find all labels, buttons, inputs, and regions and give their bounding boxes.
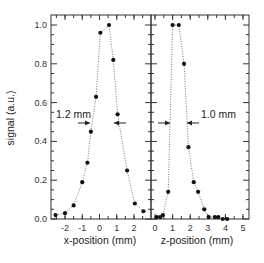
data-point bbox=[98, 31, 102, 35]
data-point bbox=[171, 23, 175, 27]
right-panel-z-profile: 012345 bbox=[151, 15, 249, 233]
data-point bbox=[85, 161, 89, 165]
data-point bbox=[161, 213, 165, 217]
left-fwhm-annotation: 1.2 mm bbox=[56, 108, 91, 120]
data-point bbox=[116, 112, 120, 116]
data-point bbox=[107, 23, 111, 27]
data-point bbox=[216, 215, 220, 219]
data-point bbox=[221, 217, 225, 221]
x-tick-label: 0 bbox=[152, 223, 157, 233]
x-tick-label: 2 bbox=[131, 223, 136, 233]
right-fwhm-annotation: 1.0 mm bbox=[201, 108, 236, 120]
data-point bbox=[80, 180, 84, 184]
data-point bbox=[89, 130, 93, 134]
x-tick-label: 4 bbox=[223, 223, 228, 233]
data-point bbox=[186, 145, 190, 149]
fwhm-arrow-right-in-head bbox=[165, 121, 170, 126]
y-tick-label: 0.8 bbox=[34, 59, 47, 69]
x-tick-label: 5 bbox=[240, 223, 245, 233]
data-point bbox=[192, 180, 196, 184]
y-tick-label: 0.0 bbox=[34, 214, 47, 224]
data-point bbox=[111, 58, 115, 62]
y-tick-label: 1.0 bbox=[34, 20, 47, 30]
data-point bbox=[225, 217, 229, 221]
y-tick-label: 0.4 bbox=[34, 136, 47, 146]
fwhm-profile-chart: -2-10120.00.20.40.60.81.0 012345 signal … bbox=[0, 0, 264, 263]
data-point bbox=[63, 211, 67, 215]
x-tick-label: 3 bbox=[205, 223, 210, 233]
x-tick-label: 0 bbox=[97, 223, 102, 233]
fwhm-arrow-left-out-head bbox=[114, 121, 119, 126]
left-x-axis-label: x-position (mm) bbox=[64, 234, 136, 246]
data-point bbox=[207, 215, 211, 219]
data-point bbox=[166, 190, 170, 194]
x-tick-label: -2 bbox=[61, 223, 69, 233]
data-point bbox=[177, 23, 181, 27]
x-tick-label: 2 bbox=[188, 223, 193, 233]
fwhm-arrow-right-out-head bbox=[187, 121, 192, 126]
data-point bbox=[53, 213, 57, 217]
data-point bbox=[141, 209, 145, 213]
y-axis-label: signal (a.u.) bbox=[4, 91, 16, 146]
data-line bbox=[56, 25, 144, 215]
data-point bbox=[202, 207, 206, 211]
x-tick-label: 1 bbox=[114, 223, 119, 233]
data-point bbox=[196, 190, 200, 194]
data-point bbox=[133, 201, 137, 205]
data-point bbox=[182, 62, 186, 66]
right-x-axis-label: z-position (mm) bbox=[161, 234, 233, 246]
data-point bbox=[72, 203, 76, 207]
data-point bbox=[125, 168, 129, 172]
y-tick-label: 0.2 bbox=[34, 175, 47, 185]
y-tick-label: 0.6 bbox=[34, 98, 47, 108]
data-point bbox=[94, 95, 98, 99]
fwhm-arrow-left-in-head bbox=[85, 121, 90, 126]
x-tick-label: -1 bbox=[78, 223, 86, 233]
left-panel-x-profile: -2-10120.00.20.40.60.81.0 bbox=[34, 15, 151, 233]
x-tick-label: 1 bbox=[170, 223, 175, 233]
